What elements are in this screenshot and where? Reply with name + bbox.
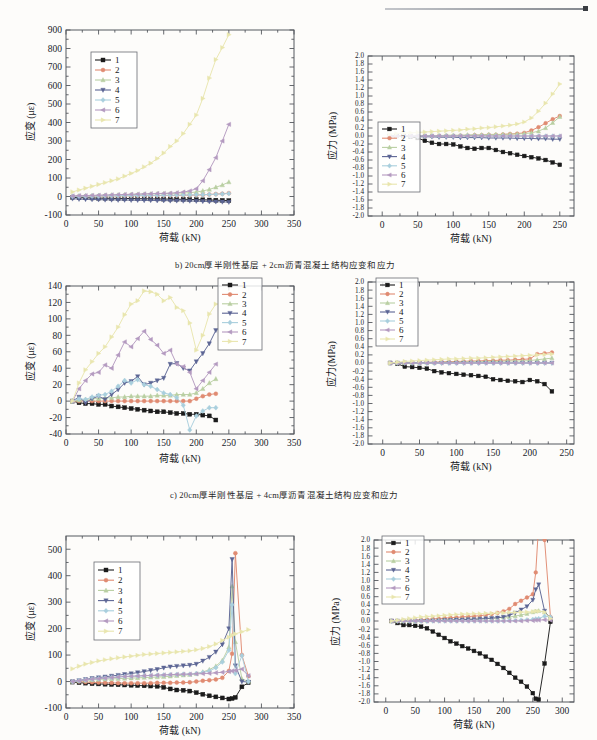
x-tick-label: 200 [189, 712, 204, 722]
data-point-marker [181, 681, 185, 685]
data-point-marker [230, 557, 234, 561]
y-tick-label: 0 [57, 192, 62, 202]
legend-label-2: 2 [118, 575, 123, 585]
x-tick-label: 300 [254, 438, 269, 448]
data-point-marker [515, 153, 519, 157]
data-point-marker [188, 689, 192, 693]
data-point-marker [155, 410, 159, 414]
data-point-marker [447, 371, 451, 375]
data-point-marker [84, 662, 88, 666]
data-point-marker [472, 649, 476, 653]
x-tick-label: 150 [482, 220, 497, 230]
data-point-marker [129, 654, 133, 658]
data-point-marker [543, 538, 547, 542]
x-tick-label: 0 [380, 220, 385, 230]
x-tick-label: 0 [383, 706, 388, 716]
y-tick-label: 1.0 [361, 577, 370, 585]
y-tick-label: 400 [48, 118, 63, 128]
data-point-marker [149, 681, 153, 685]
y-axis-title: 应力(MPa) [325, 341, 338, 387]
data-point-marker [214, 642, 218, 646]
data-point-marker [247, 627, 251, 631]
data-point-marker [494, 125, 498, 129]
data-point-marker [425, 626, 429, 630]
data-point-marker [101, 68, 105, 72]
data-point-marker [544, 158, 548, 162]
data-point-marker [194, 390, 198, 394]
x-tick-label: 0 [380, 448, 385, 458]
data-point-marker [521, 380, 525, 384]
data-point-marker [537, 522, 541, 526]
data-point-marker [103, 681, 107, 685]
y-tick-label: 100 [48, 314, 63, 324]
y-tick-label: -1.0 [353, 172, 365, 180]
x-tick-label: 200 [189, 219, 204, 229]
y-tick-label: -0.4 [359, 634, 371, 642]
data-point-marker [513, 379, 517, 383]
data-point-marker [531, 691, 535, 695]
x-tick-label: 0 [64, 219, 69, 229]
data-point-marker [543, 126, 547, 130]
data-point-marker [220, 670, 224, 674]
data-point-marker [175, 305, 179, 309]
y-tick-label: -2.0 [353, 212, 365, 220]
legend-label-6: 6 [115, 105, 120, 115]
data-point-marker [129, 171, 133, 175]
data-point-marker [207, 381, 211, 385]
y-tick-label: 0.2 [355, 124, 364, 132]
y-tick-label: 100 [48, 173, 63, 183]
data-point-marker [194, 648, 198, 652]
data-point-marker [392, 550, 396, 554]
data-point-marker [96, 370, 100, 374]
x-tick-label: 50 [94, 712, 104, 722]
data-point-marker [162, 410, 166, 414]
x-tick-label: 150 [157, 712, 172, 722]
data-point-marker [155, 651, 159, 655]
data-point-marker [123, 681, 127, 685]
y-tick-label: 0.8 [355, 327, 364, 335]
data-point-marker [101, 58, 105, 62]
x-tick-label: 350 [287, 219, 302, 229]
data-point-marker [207, 393, 211, 397]
y-tick-label: 0.0 [355, 132, 364, 140]
y-tick-label: -0.2 [353, 140, 365, 148]
data-point-marker [194, 680, 198, 684]
y-tick-label: -0.2 [359, 626, 371, 634]
legend-label-1: 1 [118, 565, 123, 575]
data-point-marker [214, 418, 218, 422]
data-point-marker [188, 680, 192, 684]
data-point-marker [155, 399, 159, 403]
data-point-marker [142, 408, 146, 412]
legend-box [218, 278, 262, 350]
data-point-marker [90, 184, 94, 188]
data-point-marker [123, 174, 127, 178]
y-tick-label: -1.2 [353, 180, 365, 188]
chart-b-strain: 050100150200250300350-100010020030040050… [18, 22, 308, 252]
y-tick-label: -2.0 [353, 440, 365, 448]
data-point-marker [220, 696, 224, 700]
x-tick-label: 150 [486, 448, 501, 458]
data-point-marker [522, 154, 526, 158]
data-point-marker [506, 379, 510, 383]
data-point-marker [491, 377, 495, 381]
data-point-marker [513, 676, 517, 680]
data-point-marker [534, 571, 538, 575]
y-tick-label: 500 [48, 99, 63, 109]
data-point-marker [501, 150, 505, 154]
data-point-marker [515, 122, 519, 126]
data-point-marker [519, 599, 523, 603]
y-tick-label: 1.2 [355, 84, 364, 92]
x-tick-label: 250 [222, 438, 237, 448]
data-point-marker [149, 399, 153, 403]
data-point-marker [418, 366, 422, 370]
data-point-marker [208, 644, 212, 648]
y-tick-label: -0.2 [353, 368, 365, 376]
data-point-marker [214, 329, 218, 333]
data-point-marker [506, 354, 510, 358]
x-tick-label: 350 [287, 438, 302, 448]
y-tick-label: 0 [57, 396, 62, 406]
y-tick-label: 400 [48, 571, 63, 581]
data-point-marker [388, 127, 392, 131]
data-point-marker [388, 136, 392, 140]
y-tick-label: 1.6 [361, 553, 370, 561]
